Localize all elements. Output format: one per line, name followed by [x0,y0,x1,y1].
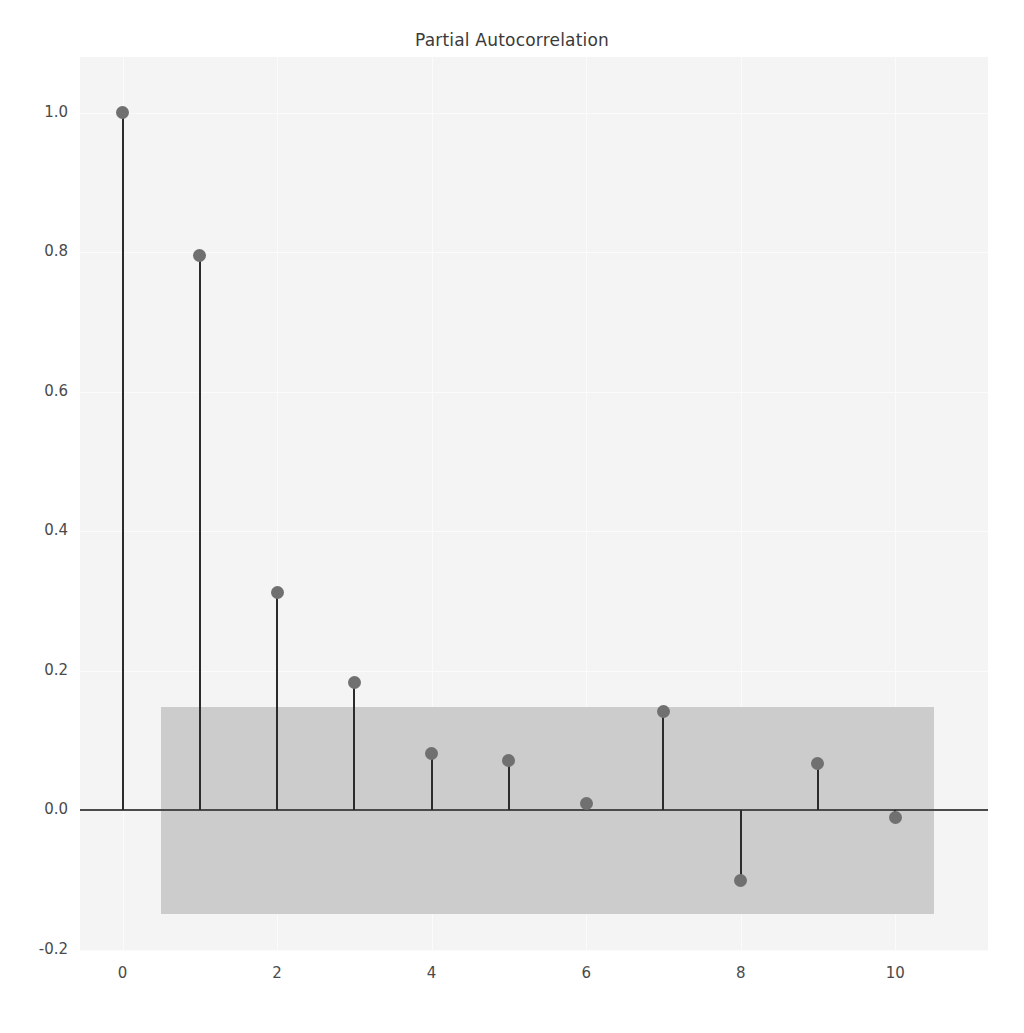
x-tick-label-10: 10 [865,964,925,982]
x-tick-label-0: 0 [93,964,153,982]
x-axis-tick-labels: 0246810 [0,0,1024,1033]
x-tick-label-2: 2 [247,964,307,982]
x-tick-label-6: 6 [556,964,616,982]
x-tick-label-4: 4 [402,964,462,982]
partial-autocorrelation-figure: Partial Autocorrelation -0.20.00.20.40.6… [0,0,1024,1033]
x-tick-label-8: 8 [711,964,771,982]
